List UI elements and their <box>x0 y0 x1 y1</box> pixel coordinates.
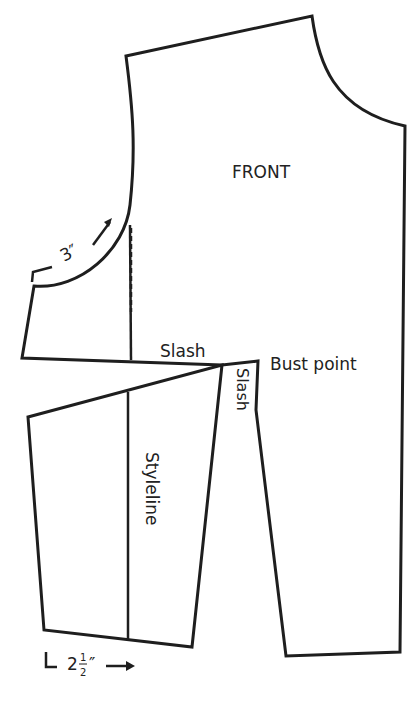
hem-measure-denominator: 2 <box>80 667 86 678</box>
slash-vertical-label: Slash <box>233 368 252 411</box>
slash-horizontal-label: Slash <box>160 341 206 361</box>
armhole-measure-bracket <box>32 267 52 282</box>
hem-arrow-head <box>126 661 135 671</box>
styleline-label: Styleline <box>142 452 162 525</box>
bust-point-label: Bust point <box>270 354 357 374</box>
armhole-measure-label: 3″ <box>56 240 81 266</box>
front-bodice-upper-outline <box>22 16 405 656</box>
hem-measure-unit: ″ <box>89 654 95 674</box>
hem-measure-bracket <box>46 652 57 667</box>
armhole-arrow-head <box>104 218 112 227</box>
pattern-diagram: 3″ FRONT Slash Bust point Slash Stylelin… <box>0 0 419 718</box>
front-label: FRONT <box>232 162 291 182</box>
hem-measure-whole: 2 <box>67 654 78 674</box>
hem-measure-numerator: 1 <box>80 652 86 663</box>
side-panel-outline <box>28 365 222 647</box>
